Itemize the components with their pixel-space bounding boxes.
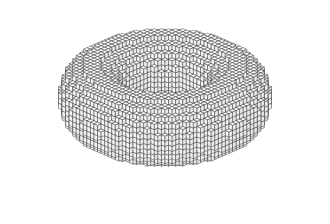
- voxel-torus-figure: [0, 0, 330, 224]
- voxel-torus-illustration: [0, 0, 330, 224]
